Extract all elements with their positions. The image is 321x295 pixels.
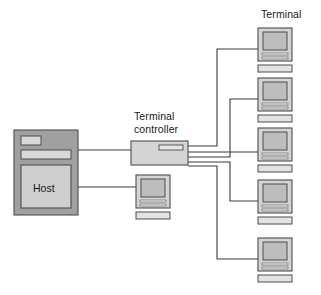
- terminal-3-keyboard: [258, 165, 292, 172]
- terminal-group-label: Terminal: [261, 8, 301, 21]
- terminal-1-keyboard: [258, 65, 292, 72]
- terminal-5-vent-2: [262, 267, 288, 269]
- link-controller-to-terminal-4: [188, 162, 258, 201]
- terminal-1-node[interactable]: [258, 28, 292, 72]
- terminal-5-vent-1: [262, 263, 288, 265]
- terminal-4-vent-1: [262, 205, 288, 207]
- terminal-2-node[interactable]: [258, 78, 292, 122]
- local-terminal-vent-1: [140, 200, 166, 202]
- terminal-3-vent-1: [262, 153, 288, 155]
- terminal-controller-label-line1: Terminal: [134, 110, 178, 123]
- terminal-3-node[interactable]: [258, 128, 292, 172]
- terminal-4-screen: [263, 184, 287, 202]
- terminal-5-keyboard: [258, 275, 292, 282]
- host-slot-small: [21, 136, 41, 145]
- terminal-3-screen: [263, 132, 287, 150]
- local-terminal-keyboard: [136, 212, 170, 219]
- terminal-3-vent-2: [262, 157, 288, 159]
- controller-indicator-bar: [159, 145, 183, 150]
- local-terminal-screen: [141, 179, 165, 197]
- link-controller-to-terminal-1: [188, 49, 258, 146]
- local-terminal-vent-2: [140, 204, 166, 206]
- terminal-controller-label-line2: controller: [134, 123, 178, 136]
- terminal-5-screen: [263, 242, 287, 260]
- terminal-controller-node[interactable]: [131, 141, 188, 165]
- terminal-4-keyboard: [258, 217, 292, 224]
- terminal-1-vent-1: [262, 53, 288, 55]
- terminal-4-node[interactable]: [258, 180, 292, 224]
- link-controller-to-terminal-5: [188, 166, 258, 259]
- local-terminal-node[interactable]: [136, 175, 170, 219]
- terminal-controller-label: Terminal controller: [134, 110, 178, 135]
- host-slot-wide: [21, 150, 71, 159]
- terminal-5-node[interactable]: [258, 238, 292, 282]
- host-label: Host: [33, 182, 55, 194]
- link-controller-to-terminal-2: [188, 99, 258, 157]
- terminal-1-vent-2: [262, 57, 288, 59]
- terminal-4-vent-2: [262, 209, 288, 211]
- terminal-2-vent-1: [262, 103, 288, 105]
- host-node[interactable]: [14, 130, 78, 215]
- diagram-canvas: Terminal Terminal controller Host: [0, 0, 321, 295]
- diagram-svg: [0, 0, 321, 295]
- terminal-1-screen: [263, 32, 287, 50]
- terminal-2-screen: [263, 82, 287, 100]
- terminal-2-keyboard: [258, 115, 292, 122]
- terminal-2-vent-2: [262, 107, 288, 109]
